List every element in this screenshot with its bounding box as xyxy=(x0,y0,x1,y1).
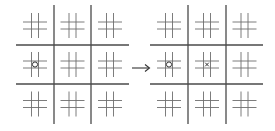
small-board xyxy=(23,92,47,117)
diagram-canvas xyxy=(0,0,275,131)
small-board xyxy=(98,52,122,77)
small-board xyxy=(61,92,85,117)
small-board xyxy=(61,52,85,77)
small-board xyxy=(195,92,219,117)
small-board xyxy=(61,13,85,38)
small-board xyxy=(98,92,122,117)
small-board xyxy=(23,13,47,38)
small-board xyxy=(157,92,181,117)
small-board xyxy=(233,13,257,38)
small-board xyxy=(233,92,257,117)
small-board xyxy=(233,52,257,77)
board-before xyxy=(16,5,129,124)
ultimate-tic-tac-toe-diagram xyxy=(0,0,275,131)
x-mark-icon xyxy=(205,63,209,67)
o-mark-icon xyxy=(166,62,171,67)
arrow-icon xyxy=(132,65,150,72)
small-board xyxy=(157,13,181,38)
small-board xyxy=(195,13,219,38)
board-after xyxy=(150,5,263,124)
small-board xyxy=(98,13,122,38)
o-mark-icon xyxy=(32,62,37,67)
